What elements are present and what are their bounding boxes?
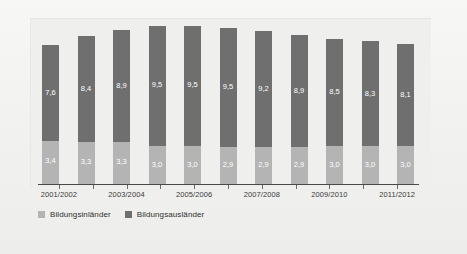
legend-label: Bildungsinländer [50, 210, 111, 219]
x-axis-tick [363, 185, 364, 189]
x-axis-tick-label: 2011/2012 [379, 190, 415, 199]
x-axis-tick [329, 185, 330, 189]
bar-segment-bildungsinlaender[interactable]: 3,0 [362, 146, 379, 184]
bar-value-label: 3,3 [116, 158, 127, 166]
bar-segment-bildungsinlaender[interactable]: 3,0 [397, 146, 414, 184]
bar-value-label: 8,9 [294, 87, 305, 95]
x-axis-tick [160, 185, 161, 189]
bar-value-label: 9,5 [187, 81, 198, 89]
x-axis-tick-labels: 2001/20022003/20042005/20062007/20082009… [38, 190, 418, 204]
bar-segment-bildungsinlaender[interactable]: 3,3 [78, 142, 95, 184]
bar-segment-bildungsauslaender[interactable]: 8,5 [326, 39, 343, 146]
bar-segment-bildungsauslaender[interactable]: 9,5 [220, 28, 237, 148]
bar-value-label: 2,9 [294, 161, 305, 169]
bar-group[interactable]: 8,33,0 [362, 41, 379, 184]
x-axis-tick-label: 2001/2002 [41, 190, 77, 199]
bar-value-label: 3,3 [81, 158, 92, 166]
bar-group[interactable]: 7,63,4 [42, 45, 59, 184]
legend-swatch-icon [125, 211, 132, 218]
bar-value-label: 3,0 [329, 161, 340, 169]
bar-segment-bildungsauslaender[interactable]: 8,9 [291, 35, 308, 147]
legend-item[interactable]: Bildungsausländer [125, 210, 205, 219]
bar-segment-bildungsinlaender[interactable]: 2,9 [220, 147, 237, 184]
bar-series-container: 7,63,48,43,38,93,39,53,09,53,09,52,99,22… [38, 20, 418, 184]
bar-group[interactable]: 9,53,0 [149, 26, 166, 184]
bar-value-label: 9,5 [152, 81, 163, 89]
x-axis-tick-label: 2003/2004 [108, 190, 144, 199]
bar-segment-bildungsauslaender[interactable]: 8,9 [113, 30, 130, 142]
bar-segment-bildungsauslaender[interactable]: 8,1 [397, 44, 414, 146]
bar-value-label: 3,0 [400, 161, 411, 169]
x-axis-tick [262, 185, 263, 189]
chart-legend: BildungsinländerBildungsausländer [38, 210, 204, 219]
bar-segment-bildungsinlaender[interactable]: 3,0 [184, 146, 201, 184]
bar-segment-bildungsinlaender[interactable]: 3,0 [149, 146, 166, 184]
x-axis-tick [397, 185, 398, 189]
x-axis-tick [93, 185, 94, 189]
x-axis-tick-label: 2005/2006 [176, 190, 212, 199]
x-axis-tick-label: 2007/2008 [244, 190, 280, 199]
bar-value-label: 9,2 [258, 85, 269, 93]
bar-group[interactable]: 8,13,0 [397, 44, 414, 184]
bar-group[interactable]: 9,53,0 [184, 26, 201, 184]
bar-group[interactable]: 8,43,3 [78, 36, 95, 184]
bar-value-label: 3,0 [187, 161, 198, 169]
bar-value-label: 3,0 [152, 161, 163, 169]
bar-group[interactable]: 8,53,0 [326, 39, 343, 184]
x-axis-tick-label: 2009/2010 [311, 190, 347, 199]
bar-group[interactable]: 8,93,3 [113, 30, 130, 184]
bar-segment-bildungsauslaender[interactable]: 9,5 [184, 26, 201, 146]
legend-item[interactable]: Bildungsinländer [38, 210, 111, 219]
bar-segment-bildungsauslaender[interactable]: 9,2 [255, 31, 272, 147]
bar-value-label: 2,9 [258, 161, 269, 169]
bar-value-label: 9,5 [223, 83, 234, 91]
bar-segment-bildungsauslaender[interactable]: 7,6 [42, 45, 59, 141]
x-axis-tick [296, 185, 297, 189]
x-axis-tick [59, 185, 60, 189]
x-axis-tick [228, 185, 229, 189]
bar-group[interactable]: 8,92,9 [291, 35, 308, 184]
bar-segment-bildungsinlaender[interactable]: 3,3 [113, 142, 130, 184]
bar-value-label: 8,3 [365, 90, 376, 98]
bar-segment-bildungsauslaender[interactable]: 8,4 [78, 36, 95, 142]
plot-area: 7,63,48,43,38,93,39,53,09,53,09,52,99,22… [38, 20, 418, 184]
x-axis-ticks [38, 185, 418, 189]
bar-segment-bildungsauslaender[interactable]: 9,5 [149, 26, 166, 146]
bar-value-label: 2,9 [223, 161, 234, 169]
bar-value-label: 7,6 [45, 89, 56, 97]
legend-swatch-icon [38, 211, 45, 218]
bar-segment-bildungsinlaender[interactable]: 3,0 [326, 146, 343, 184]
bar-value-label: 8,9 [116, 82, 127, 90]
bar-group[interactable]: 9,52,9 [220, 28, 237, 184]
bar-group[interactable]: 9,22,9 [255, 31, 272, 184]
bar-segment-bildungsinlaender[interactable]: 2,9 [291, 147, 308, 184]
bar-value-label: 8,1 [400, 91, 411, 99]
bar-segment-bildungsauslaender[interactable]: 8,3 [362, 41, 379, 146]
legend-label: Bildungsausländer [137, 210, 205, 219]
bar-value-label: 8,4 [81, 85, 92, 93]
bar-value-label: 8,5 [329, 88, 340, 96]
x-axis-tick [127, 185, 128, 189]
bar-value-label: 3,4 [45, 157, 56, 165]
bar-segment-bildungsinlaender[interactable]: 2,9 [255, 147, 272, 184]
x-axis-tick [194, 185, 195, 189]
chart-figure: 7,63,48,43,38,93,39,53,09,53,09,52,99,22… [0, 0, 467, 254]
bar-segment-bildungsinlaender[interactable]: 3,4 [42, 141, 59, 184]
bar-value-label: 3,0 [365, 161, 376, 169]
